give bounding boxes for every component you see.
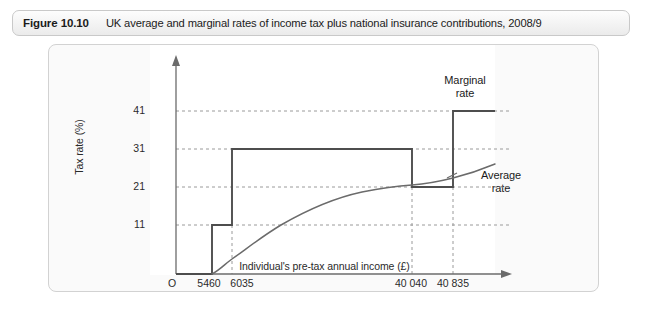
figure-caption: UK average and marginal rates of income …	[106, 17, 542, 29]
chart-panel: Tax rate (%) 41 31 21 11 O 5460 6035 40 …	[48, 44, 599, 292]
figure-title-bar: Figure 10.10 UK average and marginal rat…	[12, 10, 630, 36]
y-axis-arrow	[172, 55, 180, 66]
droplines	[232, 187, 453, 274]
x-axis-arrow	[501, 270, 512, 278]
gridlines	[176, 111, 511, 225]
figure-container: Figure 10.10 UK average and marginal rat…	[0, 0, 646, 331]
marginal-rate-series	[176, 111, 495, 274]
chart-plot-svg	[49, 45, 599, 292]
figure-number: Figure 10.10	[23, 17, 89, 29]
